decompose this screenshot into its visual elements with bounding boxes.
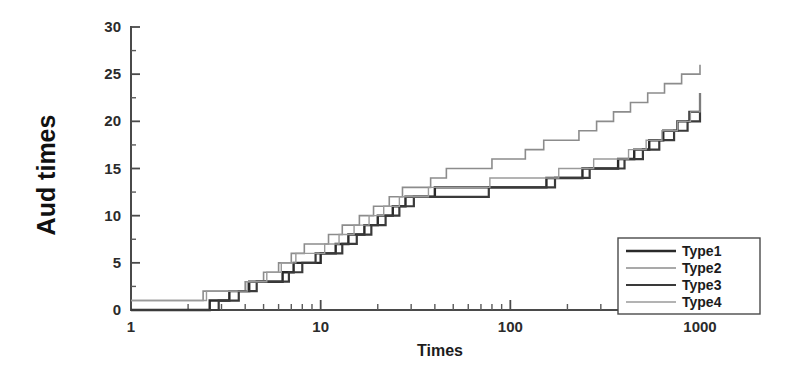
chart-svg: Aud times 051015202530 1101001000 Times … (0, 0, 792, 376)
y-tick-label: 10 (104, 207, 121, 224)
y-tick-label: 15 (104, 160, 121, 177)
y-axis-title-text: Aud times (32, 115, 60, 236)
x-axis-title: Times (417, 342, 463, 359)
y-axis-title: Aud times (32, 115, 60, 236)
x-tick-label: 10 (312, 318, 329, 335)
legend-label-type2: Type2 (682, 260, 722, 276)
legend-label-type4: Type4 (682, 294, 722, 310)
x-tick-label: 1 (127, 318, 135, 335)
x-tick-label: 100 (498, 318, 523, 335)
chart-figure: Aud times 051015202530 1101001000 Times … (0, 0, 792, 376)
x-axis-title-text: Times (417, 342, 463, 359)
y-tick-label: 5 (113, 254, 121, 271)
x-tick-label: 1000 (683, 318, 716, 335)
y-tick-label: 25 (104, 65, 121, 82)
chart-legend: Type1Type2Type3Type4 (618, 238, 760, 314)
legend-label-type3: Type3 (682, 277, 722, 293)
y-tick-label: 0 (113, 301, 121, 318)
legend-label-type1: Type1 (682, 243, 722, 259)
chart-background (0, 0, 792, 376)
y-tick-label: 20 (104, 112, 121, 129)
y-tick-label: 30 (104, 18, 121, 35)
